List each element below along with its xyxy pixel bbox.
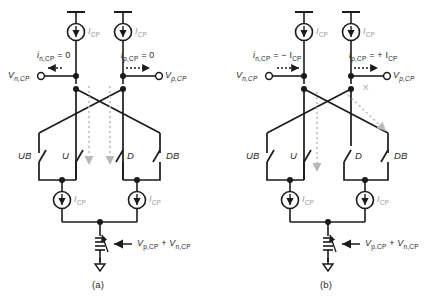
source-label-bottom-right-a: ICP: [149, 194, 161, 206]
switch-lower-d-b: [344, 162, 351, 180]
junction-dot: [348, 73, 354, 79]
switch-blade-u-b[interactable]: [304, 150, 311, 162]
ground-symbol-a: [95, 258, 105, 271]
current-source-bottom-right-b: [357, 180, 374, 222]
switch-blade-d-b[interactable]: [344, 150, 351, 162]
panel-caption-b: (b): [320, 279, 332, 290]
sub: p,CP: [171, 75, 186, 82]
sub: n,CP: [39, 55, 54, 62]
sub: CP: [91, 31, 100, 38]
switch-label-d-b: D: [355, 150, 362, 161]
current-label-left-b: in,CP = − ICP: [253, 50, 302, 62]
switch-label-u-a: U: [62, 150, 69, 161]
switch-label-db-b: DB: [394, 150, 408, 161]
terminal-node-right-b: [384, 73, 391, 80]
supply-rail-left-a: [67, 12, 85, 24]
sub: p,CP: [399, 75, 414, 82]
switch-label-ub-b: UB: [246, 150, 260, 161]
cross-wire-1-b: [304, 89, 388, 133]
resistor-voltage-label-b: Vp,CP + Vn,CP: [365, 238, 419, 250]
current-label-right-b: ip,CP = + ICP: [349, 50, 398, 62]
sub: CP: [319, 31, 328, 38]
resistor-voltage-label-a: Vp,CP + Vn,CP: [137, 238, 191, 250]
switch-lower-db-b: [351, 162, 388, 180]
terminal-label-left-a: Vn,CP: [8, 70, 29, 82]
supply-rail-right-b: [342, 12, 360, 24]
switch-blade-d-a[interactable]: [116, 150, 123, 162]
current-label-right-a: ip,CP = 0: [121, 50, 155, 62]
terminal-node-right-a: [156, 73, 163, 80]
sub: CP: [380, 199, 389, 206]
switch-lower-ub-b: [267, 162, 304, 180]
source-label-bottom-left-a: ICP: [74, 194, 86, 206]
junction-dot: [120, 73, 126, 79]
current-source-bottom-left-b: [282, 180, 299, 222]
sub: CP: [138, 31, 147, 38]
terminal-node-left-b: [266, 73, 273, 80]
switch-blade-u-a[interactable]: [76, 150, 83, 162]
junction-dot: [73, 73, 79, 79]
sub: n,CP: [242, 75, 257, 82]
sub: CP: [152, 199, 161, 206]
switch-blade-db-a[interactable]: [153, 150, 160, 162]
sub: p,CP: [351, 55, 366, 62]
terminal-label-left-b: Vn,CP: [236, 70, 257, 82]
sub: CP: [292, 55, 301, 62]
sub: CP: [388, 55, 397, 62]
cross-wire-2-b: [267, 89, 351, 133]
terminal-label-right-b: Vp,CP: [393, 70, 414, 82]
current-source-bottom-right-a: [129, 180, 146, 222]
circuit-figure: Vn,CP Vp,CP in,CP = 0 ip,CP = 0 ICP ICP …: [0, 0, 437, 302]
switch-label-db-a: DB: [166, 150, 180, 161]
sub: n,CP: [404, 243, 419, 250]
cross-marker-b: X: [363, 83, 369, 92]
ground-symbol-b: [323, 258, 333, 271]
switch-blade-db-b[interactable]: [381, 150, 388, 162]
switch-lower-ub-a: [39, 162, 76, 180]
sub: p,CP: [143, 243, 158, 250]
terminal-node-left-a: [38, 73, 45, 80]
switch-label-u-b: U: [290, 150, 297, 161]
switch-lower-db-a: [123, 162, 160, 180]
switch-label-ub-a: UB: [18, 150, 32, 161]
sub: n,CP: [176, 243, 191, 250]
source-label-top-right-b: ICP: [363, 26, 375, 38]
current-label-left-a: in,CP = 0: [37, 50, 71, 62]
sub: CP: [305, 199, 314, 206]
switch-blade-ub-a[interactable]: [39, 150, 46, 162]
sub: p,CP: [123, 55, 138, 62]
sub: CP: [366, 31, 375, 38]
terminal-label-right-a: Vp,CP: [165, 70, 186, 82]
supply-rail-left-b: [295, 12, 313, 24]
sub: n,CP: [14, 75, 29, 82]
variable-resistor-b: [323, 222, 336, 262]
source-label-top-right-a: ICP: [135, 26, 147, 38]
sub: n,CP: [255, 55, 270, 62]
switch-blade-ub-b[interactable]: [267, 150, 274, 162]
variable-resistor-a: [95, 222, 108, 262]
sub: CP: [77, 199, 86, 206]
panel-caption-a: (a): [92, 279, 104, 290]
junction-dot: [301, 73, 307, 79]
supply-rail-right-a: [114, 12, 132, 24]
dotted-path-diagonal-b: [348, 95, 386, 131]
current-source-bottom-left-a: [54, 180, 71, 222]
source-label-bottom-left-b: ICP: [302, 194, 314, 206]
source-label-bottom-right-b: ICP: [377, 194, 389, 206]
source-label-top-left-a: ICP: [88, 26, 100, 38]
sub: p,CP: [371, 243, 386, 250]
switch-label-d-a: D: [127, 150, 134, 161]
source-label-top-left-b: ICP: [316, 26, 328, 38]
